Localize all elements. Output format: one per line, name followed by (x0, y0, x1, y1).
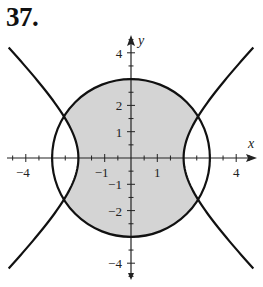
x-tick-label: −1 (95, 165, 109, 180)
x-tick-label: 4 (233, 165, 240, 180)
y-axis-label: y (136, 33, 145, 48)
y-tick-label: 1 (116, 125, 123, 140)
y-tick-label: 2 (116, 98, 123, 113)
axes (7, 35, 257, 280)
y-tick-label: −4 (108, 256, 122, 271)
figure: 37. xy−4−114421−1−2−4 (0, 0, 263, 287)
y-tick-label: 4 (116, 46, 123, 61)
x-tick-label: −4 (16, 165, 30, 180)
problem-number: 37. (6, 2, 38, 33)
y-tick-label: −2 (108, 204, 122, 219)
y-tick-label: −1 (108, 177, 122, 192)
x-tick-label: 1 (154, 165, 161, 180)
region-plot: xy−4−114421−1−2−4 (0, 0, 263, 287)
x-axis-label: x (247, 136, 255, 151)
